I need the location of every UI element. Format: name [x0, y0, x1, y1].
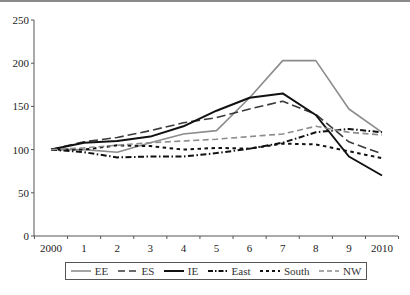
y-tick-label: 150 [13, 100, 30, 112]
y-tick-label: 50 [18, 187, 30, 199]
legend-item-nw: NW [319, 265, 361, 277]
y-tick-label: 250 [13, 14, 30, 26]
x-tick-label: 2010 [371, 242, 394, 254]
legend-swatch-east [208, 268, 228, 274]
x-tick-label: 2000 [40, 242, 63, 254]
legend-swatch-ee [71, 268, 91, 274]
x-tick-label: 3 [148, 242, 154, 254]
x-tick-label: 9 [346, 242, 352, 254]
x-tick-label: 2 [114, 242, 120, 254]
legend-label-south: South [284, 265, 310, 277]
legend-item-ee: EE [71, 265, 108, 277]
legend-label-nw: NW [343, 265, 361, 277]
series-line-ie [51, 93, 382, 175]
y-tick-label: 200 [13, 57, 30, 69]
legend-label-ie: IE [188, 265, 198, 277]
legend-label-es: ES [142, 265, 155, 277]
legend-item-ie: IE [164, 265, 198, 277]
x-tick-label: 6 [247, 242, 253, 254]
y-tick-label: 100 [13, 144, 30, 156]
legend-swatch-ie [164, 268, 184, 274]
x-tick-label: 7 [280, 242, 286, 254]
line-chart: 05010015020025020001234567892010 [0, 0, 410, 260]
legend-label-ee: EE [95, 265, 108, 277]
legend-item-es: ES [118, 265, 155, 277]
series-line-east [51, 129, 382, 158]
x-tick-label: 8 [313, 242, 319, 254]
legend-label-east: East [232, 265, 251, 277]
legend-swatch-south [260, 268, 280, 274]
legend-item-east: East [208, 265, 251, 277]
x-tick-label: 5 [214, 242, 220, 254]
legend: EE ES IE East South NW [65, 262, 367, 280]
legend-item-south: South [260, 265, 310, 277]
x-tick-label: 1 [81, 242, 87, 254]
y-tick-label: 0 [24, 230, 30, 242]
legend-swatch-nw [319, 268, 339, 274]
legend-swatch-es [118, 268, 138, 274]
x-tick-label: 4 [181, 242, 187, 254]
